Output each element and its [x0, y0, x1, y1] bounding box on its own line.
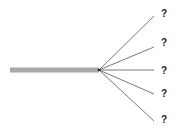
branch-line-4: [99, 70, 154, 94]
branching-diagram: [0, 0, 178, 130]
branch-label-1: ?: [161, 9, 167, 19]
branch-line-2: [99, 47, 154, 70]
branch-lines: [99, 16, 154, 121]
branch-label-4: ?: [161, 89, 167, 99]
branch-line-1: [99, 16, 154, 70]
origin-node: [98, 69, 101, 72]
trunk-bar: [10, 68, 99, 73]
branch-line-5: [99, 70, 154, 121]
branch-label-5: ?: [161, 115, 167, 125]
branch-label-3: ?: [161, 66, 167, 76]
branch-label-2: ?: [161, 38, 167, 48]
